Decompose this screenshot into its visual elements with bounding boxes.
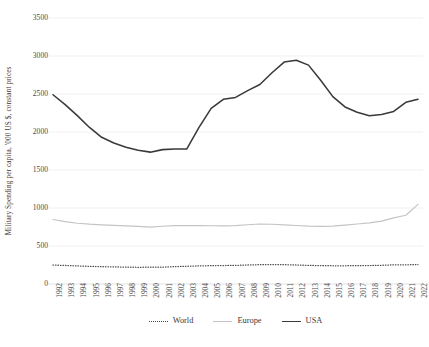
- x-tick-label: 2011: [287, 283, 294, 313]
- x-tick-label: 2002: [178, 283, 185, 313]
- x-tick-label: 1998: [129, 283, 136, 313]
- legend-label: Europe: [237, 316, 261, 326]
- legend-item-world[interactable]: World: [149, 316, 194, 326]
- x-tick-label: 2015: [336, 283, 343, 313]
- x-tick-label: 2012: [299, 283, 306, 313]
- x-tick-label: 1992: [56, 283, 63, 313]
- x-tick-label: 2018: [372, 283, 379, 313]
- x-tick-label: 2010: [275, 283, 282, 313]
- x-tick-label: 2017: [360, 283, 367, 313]
- plot-canvas: [48, 18, 423, 284]
- y-tick-label: 2000: [18, 128, 48, 136]
- y-axis-title: Military Spending per capita, '000 US $,…: [2, 6, 16, 296]
- x-tick-label: 1993: [68, 283, 75, 313]
- series-line-world: [53, 265, 418, 268]
- x-tick-label: 2001: [166, 283, 173, 313]
- chart-legend: WorldEuropeUSA: [48, 312, 423, 330]
- x-tick-label: 1995: [93, 283, 100, 313]
- y-tick-label: 0: [18, 280, 48, 288]
- solid-line-swatch: [282, 321, 301, 322]
- x-tick-label: 1996: [105, 283, 112, 313]
- y-tick-label: 3000: [18, 52, 48, 60]
- x-tick-label: 2022: [421, 283, 428, 313]
- x-tick-label: 1999: [141, 283, 148, 313]
- x-tick-label: 2013: [312, 283, 319, 313]
- x-tick-label: 2006: [226, 283, 233, 313]
- y-tick-label: 1000: [18, 204, 48, 212]
- legend-label: World: [173, 316, 194, 326]
- y-tick-label: 1500: [18, 166, 48, 174]
- x-tick-label: 2020: [397, 283, 404, 313]
- legend-item-europe[interactable]: Europe: [213, 316, 261, 326]
- x-tick-label: 2009: [263, 283, 270, 313]
- x-tick-label: 2004: [202, 283, 209, 313]
- x-tick-label: 2016: [348, 283, 355, 313]
- legend-label: USA: [306, 316, 323, 326]
- x-tick-label: 2000: [153, 283, 160, 313]
- plot-area: [48, 18, 423, 284]
- y-axis-tick-labels: 0500100015002000250030003500: [18, 0, 48, 347]
- x-tick-label: 2014: [324, 283, 331, 313]
- y-tick-label: 3500: [18, 14, 48, 22]
- x-tick-label: 1997: [117, 283, 124, 313]
- x-tick-label: 1994: [80, 283, 87, 313]
- series-line-usa: [53, 60, 418, 152]
- solid-line-swatch: [213, 321, 232, 322]
- x-tick-label: 2008: [251, 283, 258, 313]
- x-tick-label: 2021: [409, 283, 416, 313]
- x-tick-label: 2019: [385, 283, 392, 313]
- dotted-line-swatch: [149, 321, 168, 322]
- x-tick-label: 2005: [214, 283, 221, 313]
- x-tick-label: 2003: [190, 283, 197, 313]
- legend-item-usa[interactable]: USA: [282, 316, 323, 326]
- x-tick-label: 2007: [239, 283, 246, 313]
- military-spending-per-capita-chart: Military Spending per capita, '000 US $,…: [0, 0, 429, 347]
- y-tick-label: 500: [18, 242, 48, 250]
- y-tick-label: 2500: [18, 90, 48, 98]
